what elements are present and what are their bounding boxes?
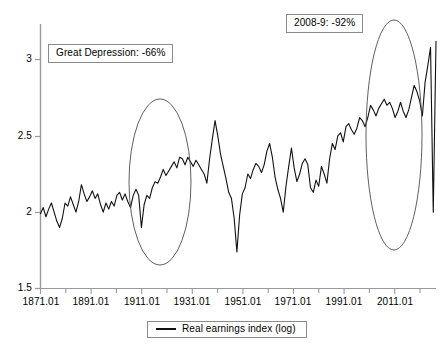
y-tick-label-3: 3	[12, 53, 32, 64]
x-tick-label-1931: 1931.01	[174, 296, 211, 307]
x-axis-ticks	[41, 289, 421, 295]
chart-container: 3 2.5 2 1.5 1871.01 1891.01 1911.01 1931…	[0, 0, 444, 349]
x-tick-label-2011: 2011.01	[377, 296, 413, 307]
x-tick-label-1891: 1891.01	[73, 296, 110, 307]
chart-legend: Real earnings index (log)	[147, 321, 307, 338]
y-tick-label-2: 2	[12, 206, 32, 217]
annotation-2008-crash: 2008-9: -92%	[286, 14, 363, 33]
legend-line-swatch	[156, 328, 176, 330]
x-tick-label-1911: 1911.01	[124, 296, 160, 307]
highlight-ellipse-great-depression	[129, 99, 191, 265]
y-axis-ticks	[35, 60, 41, 289]
x-tick-label-1871: 1871.01	[23, 296, 60, 307]
annotation-great-depression: Great Depression: -66%	[48, 44, 173, 63]
series-line-real-earnings-index	[41, 41, 437, 252]
y-tick-label-2-5: 2.5	[6, 130, 32, 141]
x-tick-label-1971: 1971.01	[275, 296, 312, 307]
highlight-ellipse-2008-crash	[366, 20, 422, 250]
y-tick-label-1-5: 1.5	[6, 282, 32, 293]
x-tick-label-1951: 1951.01	[225, 296, 262, 307]
legend-label-real-earnings-index: Real earnings index (log)	[182, 324, 296, 334]
x-tick-label-1991: 1991.01	[326, 296, 363, 307]
